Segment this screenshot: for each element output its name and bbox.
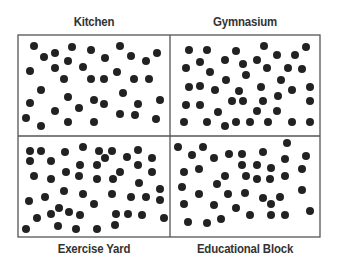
dot xyxy=(64,118,72,126)
dot xyxy=(188,151,196,159)
dot xyxy=(196,82,204,90)
dot xyxy=(90,200,98,208)
dot xyxy=(79,63,87,71)
dot xyxy=(257,83,265,91)
dot xyxy=(232,118,240,126)
dot xyxy=(109,175,117,183)
dot xyxy=(306,97,314,105)
dot xyxy=(64,93,72,101)
dot xyxy=(108,190,116,198)
dot xyxy=(33,214,41,222)
dot xyxy=(253,56,261,64)
dot xyxy=(281,155,289,163)
dot xyxy=(156,185,164,193)
dot xyxy=(242,71,250,79)
dot xyxy=(22,225,30,233)
dot xyxy=(47,210,55,218)
dot xyxy=(221,56,229,64)
dot xyxy=(288,86,296,94)
dot xyxy=(182,101,190,109)
dot xyxy=(259,97,267,105)
dot xyxy=(241,189,249,197)
dot xyxy=(37,122,45,130)
dot xyxy=(276,193,284,201)
dot xyxy=(75,172,83,180)
dot xyxy=(26,147,34,155)
dot xyxy=(239,97,247,105)
dot xyxy=(195,190,203,198)
dot xyxy=(116,110,124,118)
dot xyxy=(266,175,274,183)
dot xyxy=(51,107,59,115)
dot xyxy=(100,100,108,108)
dot xyxy=(156,96,164,104)
dot-grid-diagram xyxy=(0,0,337,266)
dot xyxy=(217,215,225,223)
dot xyxy=(30,42,38,50)
dot xyxy=(131,111,139,119)
dot xyxy=(37,86,45,94)
dot xyxy=(111,221,119,229)
dot xyxy=(214,108,222,116)
dot xyxy=(228,97,236,105)
dot xyxy=(306,83,314,91)
dot xyxy=(260,42,268,50)
dot xyxy=(180,118,188,126)
panel-educational-block xyxy=(174,139,314,227)
dot xyxy=(246,211,254,219)
dot xyxy=(112,210,120,218)
dot xyxy=(37,147,45,155)
panel-kitchen xyxy=(22,42,164,130)
dot xyxy=(127,52,135,60)
dot xyxy=(232,47,240,55)
dot xyxy=(90,96,98,104)
panel-borders xyxy=(18,35,320,237)
dot xyxy=(124,210,132,218)
dot xyxy=(113,68,121,76)
dot xyxy=(238,150,246,158)
dot xyxy=(210,201,218,209)
dot xyxy=(213,180,221,188)
dot xyxy=(246,118,254,126)
dot xyxy=(283,139,291,147)
dot xyxy=(180,200,188,208)
dot xyxy=(196,58,204,66)
dot xyxy=(221,122,229,130)
dot xyxy=(232,204,240,212)
dot xyxy=(298,165,306,173)
dot xyxy=(65,208,73,216)
dot xyxy=(291,51,299,59)
dot xyxy=(185,83,193,91)
dot xyxy=(153,49,161,57)
dot xyxy=(135,179,143,187)
panel-gymnasium xyxy=(180,42,314,130)
panel-exercise-yard xyxy=(22,143,168,233)
dot xyxy=(182,64,190,72)
dot xyxy=(79,190,87,198)
dot xyxy=(134,161,142,169)
dot xyxy=(242,172,250,180)
dot xyxy=(100,75,108,83)
dot xyxy=(156,196,164,204)
dot xyxy=(225,150,233,158)
dot xyxy=(267,164,275,172)
dot xyxy=(211,86,219,94)
dot xyxy=(26,157,34,165)
dot xyxy=(160,214,168,222)
dot xyxy=(93,161,101,169)
dot xyxy=(142,57,150,65)
dot xyxy=(101,154,109,162)
dot xyxy=(298,65,306,73)
dot xyxy=(288,118,296,126)
dot xyxy=(26,99,34,107)
dot xyxy=(148,168,156,176)
dot xyxy=(75,104,83,112)
dot xyxy=(239,60,247,68)
dot xyxy=(302,43,310,51)
dot xyxy=(130,75,138,83)
dot xyxy=(93,175,101,183)
dot xyxy=(281,172,289,180)
dot xyxy=(90,118,98,126)
dot xyxy=(224,190,232,198)
dot xyxy=(26,67,34,75)
